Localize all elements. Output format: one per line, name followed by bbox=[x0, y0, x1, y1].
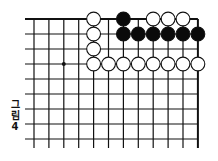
white-stone bbox=[87, 57, 101, 71]
white-stone bbox=[146, 57, 160, 71]
caption-char-1: 그 bbox=[9, 99, 21, 110]
black-stone bbox=[176, 27, 190, 41]
go-board bbox=[0, 0, 218, 161]
white-stone bbox=[176, 12, 190, 26]
black-stone bbox=[117, 27, 131, 41]
white-stone bbox=[117, 57, 131, 71]
white-stone bbox=[131, 57, 145, 71]
white-stone bbox=[161, 57, 175, 71]
white-stone bbox=[176, 57, 190, 71]
figure-caption: 그 림 4 bbox=[9, 99, 21, 132]
white-stone bbox=[102, 57, 116, 71]
white-stone bbox=[146, 12, 160, 26]
caption-char-2: 림 bbox=[9, 110, 21, 121]
black-stone bbox=[117, 12, 131, 26]
white-stone bbox=[87, 12, 101, 26]
star-point bbox=[62, 62, 66, 66]
white-stone bbox=[87, 42, 101, 56]
caption-number: 4 bbox=[9, 121, 21, 132]
white-stone bbox=[191, 57, 205, 71]
black-stone bbox=[161, 27, 175, 41]
black-stone bbox=[191, 27, 205, 41]
black-stone bbox=[131, 27, 145, 41]
black-stone bbox=[146, 27, 160, 41]
white-stone bbox=[87, 27, 101, 41]
white-stone bbox=[161, 12, 175, 26]
